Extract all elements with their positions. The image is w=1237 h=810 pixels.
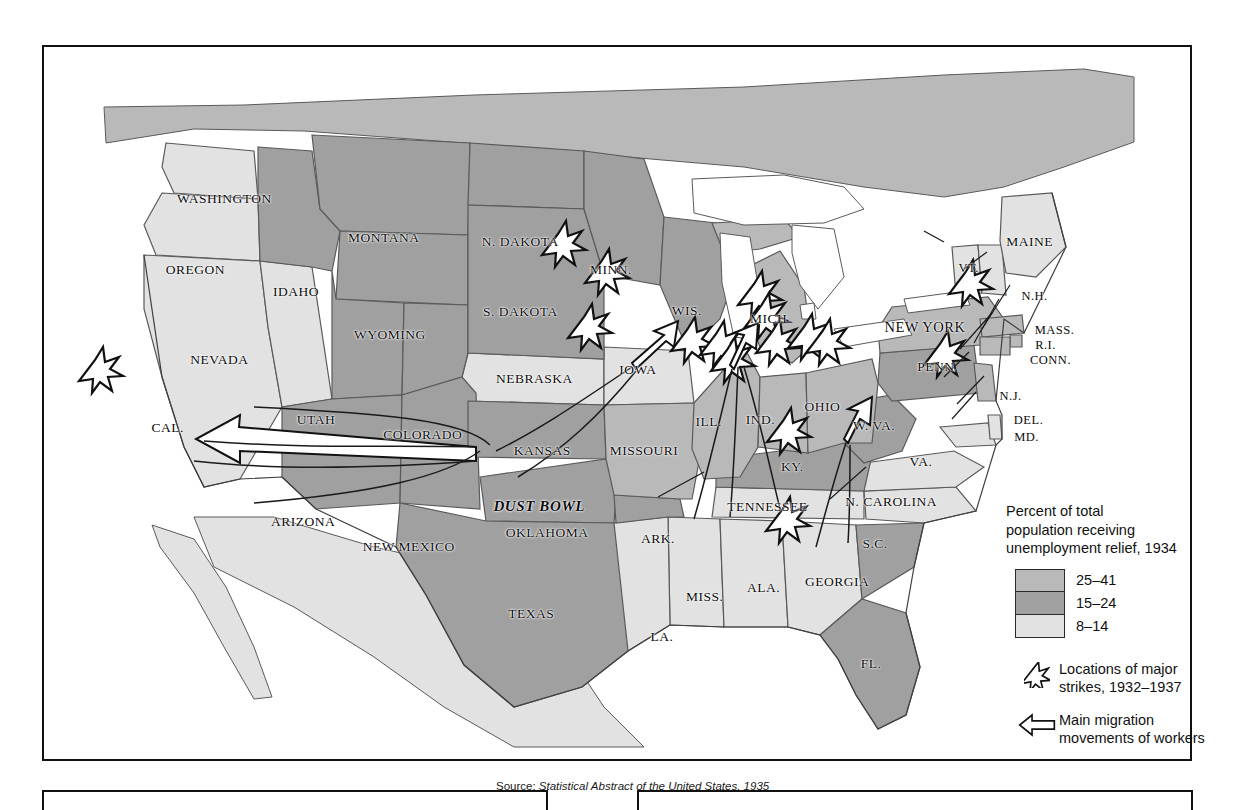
state-label-ill: ILL. <box>695 415 721 429</box>
state-label-georgia: GEORGIA <box>805 575 869 589</box>
state-label-ky: KY. <box>781 460 804 474</box>
migration-line1: Main migration <box>1059 712 1154 728</box>
legend-swatch-row: 8–14 <box>1015 615 1221 638</box>
strike-star-icon <box>1015 660 1059 688</box>
lake-stclair <box>800 303 816 319</box>
legend-title-line2: population receiving <box>1006 522 1135 538</box>
state-label-wyoming: WYOMING <box>354 329 426 343</box>
state-label-iowa: IOWA <box>619 363 656 377</box>
state-label-utah: UTAH <box>297 413 335 427</box>
legend-key-migration-text: Main migration movements of workers <box>1059 711 1205 747</box>
state-label-fl: FL. <box>861 657 882 671</box>
state-label-n-j: N.J. <box>1000 390 1022 403</box>
legend-title-line1: Percent of total <box>1006 503 1104 519</box>
legend-title-line3: unemployment relief, 1934 <box>1006 540 1177 556</box>
state-label-n-dakota: N. DAKOTA <box>482 235 559 249</box>
state-connecticut <box>980 337 1010 355</box>
state-label-kansas: KANSAS <box>514 444 571 458</box>
state-label-idaho: IDAHO <box>273 285 319 299</box>
state-label-new-mexico: NEW MEXICO <box>363 540 455 554</box>
legend-key-strikes-text: Locations of major strikes, 1932–1937 <box>1059 660 1182 696</box>
state-montana <box>312 135 470 235</box>
state-label-nevada: NEVADA <box>190 353 248 367</box>
state-rhodeisland <box>1010 335 1022 347</box>
state-label-ala: ALA. <box>747 581 780 595</box>
legend-title: Percent of total population receiving un… <box>1006 502 1221 558</box>
state-label-s-c: S.C. <box>862 537 887 551</box>
state-label-mich: MICH. <box>750 313 791 327</box>
legend-swatch-label: 8–14 <box>1076 618 1108 634</box>
state-maryland <box>940 423 996 447</box>
state-label-mass: MASS. <box>1035 324 1075 337</box>
state-label-missouri: MISSOURI <box>610 444 679 458</box>
legend-swatch-stack: 25–4115–248–14 <box>1015 569 1221 638</box>
state-label-cal: CAL. <box>151 421 183 435</box>
legend-swatch-row: 15–24 <box>1015 592 1221 615</box>
legend-key-list: Locations of major strikes, 1932–1937 Ma… <box>1015 660 1221 748</box>
state-label-md: MD. <box>1014 431 1039 444</box>
strikes-line1: Locations of major <box>1059 661 1177 677</box>
map-legend: Percent of total population receiving un… <box>1006 502 1221 762</box>
leader-vt <box>924 231 944 242</box>
state-label-wis: WIS. <box>672 304 702 318</box>
state-label-texas: TEXAS <box>508 607 554 621</box>
state-label-del: DEL. <box>1014 414 1043 427</box>
legend-swatch-label: 15–24 <box>1076 595 1116 611</box>
state-delaware <box>988 415 1002 439</box>
state-label-s-dakota: S. DAKOTA <box>483 305 558 319</box>
state-alabama <box>720 519 788 627</box>
state-label-vt: VT. <box>959 262 979 275</box>
state-label-arizona: ARIZONA <box>271 516 335 530</box>
state-newjersey <box>974 363 996 401</box>
state-label-minn: MINN. <box>590 263 632 277</box>
state-label-colorado: COLORADO <box>383 428 462 442</box>
legend-swatch-3 <box>1015 615 1065 638</box>
state-label-ohio: OHIO <box>804 400 840 414</box>
legend-swatch-2 <box>1015 592 1065 615</box>
state-label-tennessee: TENNESSEE <box>727 501 807 515</box>
migration-arrow-icon <box>1015 711 1059 737</box>
state-label-oregon: OREGON <box>166 263 225 277</box>
state-n-dakota <box>468 143 584 209</box>
state-mississippi <box>668 517 724 627</box>
strikes-line2: strikes, 1932–1937 <box>1059 679 1182 695</box>
state-label-va: VA. <box>910 455 933 469</box>
state-label-ark: ARK. <box>641 532 675 546</box>
state-label-w-va: W. VA. <box>853 419 895 433</box>
state-label-new-york: NEW YORK <box>884 320 965 335</box>
dust-bowl-label: DUST BOWL <box>493 499 585 514</box>
state-label-montana: MONTANA <box>348 231 419 245</box>
legend-swatch-row: 25–41 <box>1015 569 1221 592</box>
state-label-conn: CONN. <box>1030 354 1071 367</box>
bottom-panel-right <box>637 790 1193 810</box>
bottom-panel-left <box>42 790 548 810</box>
state-label-r-i: R.I. <box>1035 339 1056 352</box>
strike-star-california <box>79 347 123 393</box>
map-frame: WASHINGTONOREGONIDAHOMONTANAN. DAKOTAS. … <box>42 45 1192 761</box>
legend-key-strikes: Locations of major strikes, 1932–1937 <box>1015 660 1221 696</box>
legend-key-migration: Main migration movements of workers <box>1015 711 1221 747</box>
state-label-oklahoma: OKLAHOMA <box>506 527 589 541</box>
migration-line2: movements of workers <box>1059 730 1205 746</box>
state-label-maine: MAINE <box>1006 235 1053 249</box>
state-label-miss: MISS. <box>686 590 723 604</box>
state-label-n-carolina: N. CAROLINA <box>845 496 937 510</box>
state-label-washington: WASHINGTON <box>177 192 272 206</box>
legend-swatch-label: 25–41 <box>1076 572 1116 588</box>
state-label-ind: IND. <box>746 413 775 427</box>
state-label-n-h: N.H. <box>1021 289 1047 302</box>
state-label-la: LA. <box>650 630 673 644</box>
legend-swatch-1 <box>1015 569 1065 592</box>
state-label-nebraska: NEBRASKA <box>496 372 573 386</box>
state-label-penn: PENN. <box>917 360 958 374</box>
